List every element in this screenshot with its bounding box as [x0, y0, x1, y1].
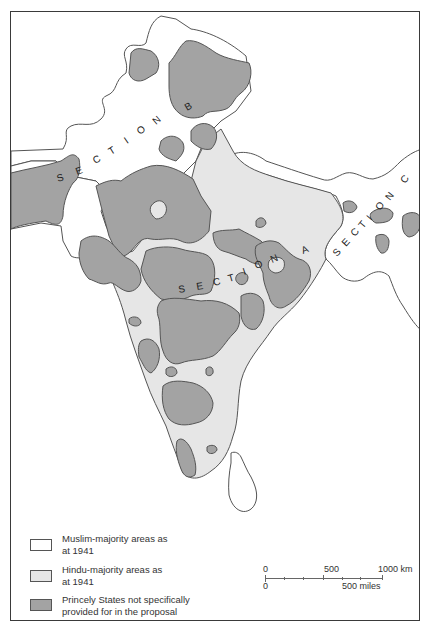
princely-bastar — [241, 293, 264, 329]
legend-label-line1: Muslim-majority areas as — [62, 533, 232, 545]
princely-small-3 — [166, 367, 177, 377]
scale-tick — [323, 575, 324, 580]
scale-miles-start: 0 — [263, 581, 268, 591]
princely-small-2 — [256, 218, 266, 228]
legend-label-line2: at 1941 — [62, 545, 232, 557]
legend-item-muslim-majority: Muslim-majority areas as at 1941 — [20, 533, 240, 563]
scale-km-mid: 500 — [324, 564, 339, 574]
swatch-muslim-majority — [30, 539, 52, 551]
legend-label: Hindu-majority areas as at 1941 — [62, 564, 232, 588]
legend-label-line2: at 1941 — [62, 576, 232, 588]
scale-tick — [342, 577, 343, 580]
scale-km-end: 1000 km — [378, 564, 413, 574]
princely-small-4 — [206, 367, 213, 376]
scale-tick — [382, 575, 383, 580]
princely-manipur — [402, 213, 420, 237]
legend-item-hindu-majority: Hindu-majority areas as at 1941 — [20, 564, 240, 594]
swatch-princely-states — [30, 599, 52, 611]
india-map: S E C T I O N B S E C T I O N A S E C T … — [11, 12, 420, 621]
map-frame: S E C T I O N B S E C T I O N A S E C T … — [10, 11, 420, 621]
scale-tick — [303, 577, 304, 580]
swatch-hindu-majority — [30, 570, 52, 582]
scale-tick — [284, 577, 285, 580]
legend-label-line1: Princely States not specifically — [62, 594, 232, 606]
legend-item-princely-states: Princely States not specifically provide… — [20, 594, 240, 624]
scale-bar: 0 500 1000 km 0 500 miles — [262, 564, 422, 604]
princely-pudukkottai — [207, 445, 217, 453]
legend-label: Muslim-majority areas as at 1941 — [62, 533, 232, 557]
hindu-enclave-1 — [150, 201, 166, 219]
legend-label-line1: Hindu-majority areas as — [62, 564, 232, 576]
scale-tick — [360, 577, 361, 580]
ceylon-island — [229, 452, 257, 511]
legend-label: Princely States not specifically provide… — [62, 594, 232, 618]
scale-km-start: 0 — [263, 564, 268, 574]
princely-deccan-2 — [129, 317, 141, 326]
legend-label-line2: provided for in the proposal — [62, 606, 232, 618]
scale-miles-end: 500 miles — [342, 581, 381, 591]
